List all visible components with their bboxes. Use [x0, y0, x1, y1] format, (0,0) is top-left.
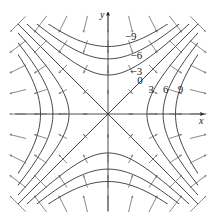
gradient-arrow	[10, 65, 26, 73]
gradient-arrow	[129, 196, 133, 212]
gradient-arrow	[84, 65, 88, 73]
gradient-arrow	[10, 135, 26, 139]
level-curve--3	[0, 153, 215, 222]
gradient-arrow	[59, 40, 67, 52]
gradient-arrow	[59, 16, 67, 32]
gradient-arrow	[84, 196, 88, 212]
level-curve-3	[0, 0, 69, 222]
gradient-arrow	[149, 16, 157, 32]
level-label: 3	[149, 83, 155, 95]
gradient-arrow	[149, 135, 157, 139]
level-label: 0	[137, 74, 143, 86]
level-labels: −9−6−30369	[125, 30, 184, 95]
gradient-arrow	[84, 16, 88, 32]
gradient-arrow	[169, 155, 181, 163]
contour-plot: xy −9−6−30369	[0, 0, 215, 222]
gradient-arrow	[84, 155, 88, 163]
y-axis-label: y	[99, 9, 105, 20]
gradient-arrow	[59, 135, 67, 139]
level-curve-9	[0, 0, 41, 222]
level-curve--9	[0, 182, 215, 223]
level-label: −9	[125, 30, 137, 42]
x-axis-label: x	[198, 115, 204, 126]
gradient-arrow	[34, 65, 46, 73]
gradient-arrow	[190, 90, 206, 94]
gradient-arrow	[190, 135, 206, 139]
level-curve-3	[147, 0, 215, 222]
level-label: 6	[163, 83, 169, 95]
gradient-arrow	[149, 196, 157, 212]
gradient-arrow	[10, 90, 26, 94]
gradient-arrow	[129, 155, 133, 163]
gradient-arrow	[190, 65, 206, 73]
level-curve--6	[0, 169, 215, 222]
gradient-arrow	[59, 90, 67, 94]
gradient-arrow	[149, 40, 157, 52]
gradient-arrow	[190, 155, 206, 163]
gradient-arrow	[10, 155, 26, 163]
level-label: 9	[178, 83, 184, 95]
level-label: −6	[131, 49, 143, 61]
gradient-arrow	[169, 65, 181, 73]
gradient-arrow	[59, 175, 67, 187]
gradient-arrow	[149, 175, 157, 187]
gradient-arrow	[59, 196, 67, 212]
gradient-arrow	[34, 155, 46, 163]
level-curves	[0, 0, 215, 222]
level-curve-9	[176, 0, 216, 222]
